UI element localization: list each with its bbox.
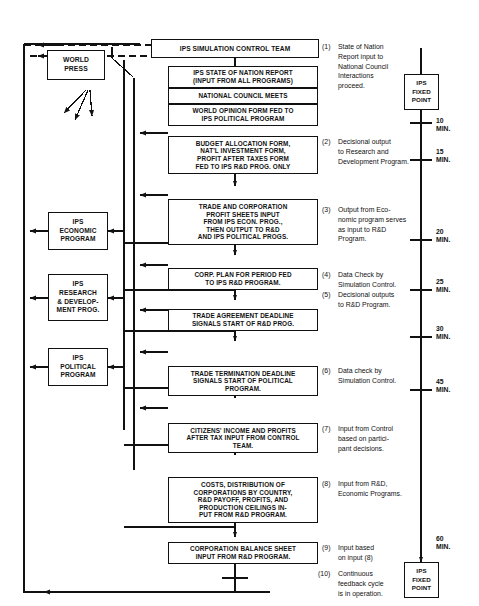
tick-value: 30 bbox=[436, 325, 450, 333]
note-number: (2) bbox=[322, 137, 338, 166]
note-number: (4) bbox=[322, 270, 338, 290]
note-line: based on partici- bbox=[338, 434, 414, 444]
program-line: & DEVELOP- bbox=[55, 298, 100, 307]
fixed-point-line: POINT bbox=[410, 96, 433, 104]
note-9: (9) Input based on input (8) bbox=[322, 543, 414, 563]
note-line: Decisional output bbox=[338, 137, 414, 147]
program-line: POLITICAL bbox=[58, 363, 98, 372]
note-line: to Research and bbox=[338, 147, 414, 157]
note-line: nomic program serves bbox=[338, 215, 416, 225]
note-line: Input from R&D, bbox=[338, 479, 414, 489]
note-line: Data check by bbox=[338, 366, 414, 376]
step-box-corp-plan[interactable]: CORP. PLAN FOR PERIOD FED TO IPS R&D PRO… bbox=[168, 268, 318, 290]
note-line: pant decisions. bbox=[338, 444, 414, 454]
program-line: PROGRAM bbox=[58, 235, 97, 244]
step-line: PRODUCTION CEILINGS IN- bbox=[197, 504, 289, 512]
tick-unit: MIN. bbox=[436, 286, 450, 294]
world-press-line-1: WORLD bbox=[61, 56, 91, 65]
step-line: CORPORATIONS BY COUNTRY, bbox=[192, 489, 295, 497]
time-tick-10min: 10 MIN. bbox=[436, 117, 450, 134]
step-line: TRADE AGREEMENT DEADLINE bbox=[190, 312, 295, 320]
note-text: Input based on input (8) bbox=[338, 543, 414, 563]
note-line: Output from Eco- bbox=[338, 205, 416, 215]
note-number: (3) bbox=[322, 205, 338, 244]
world-press-box[interactable]: WORLD PRESS bbox=[47, 50, 105, 80]
step-box-state-of-nation[interactable]: IPS STATE OF NATION REPORT (INPUT FROM A… bbox=[168, 66, 318, 88]
step-box-budget-allocation[interactable]: BUDGET ALLOCATION FORM, NAT'L INVESTMENT… bbox=[168, 136, 318, 174]
note-line: Continuous bbox=[338, 569, 414, 579]
step-line: FED TO IPS R&D PROG. ONLY bbox=[194, 163, 293, 171]
note-text: Data Check by Simulation Control. bbox=[338, 270, 414, 290]
note-text: Continuous feedback cycle is in operatio… bbox=[338, 569, 414, 598]
step-box-citizens-income[interactable]: CITIZENS' INCOME AND PROFITS AFTER TAX I… bbox=[168, 423, 318, 453]
note-line: to R&D Program. bbox=[338, 300, 414, 310]
program-box-research-development[interactable]: IPS RESEARCH & DEVELOP- MENT PROG. bbox=[48, 274, 108, 321]
tick-value: 25 bbox=[436, 278, 450, 286]
program-line: PROGRAM bbox=[58, 371, 97, 380]
step-line: PROFIT SHEETS INPUT bbox=[204, 211, 282, 219]
note-5: (5) Decisional outputs to R&D Program. bbox=[322, 290, 414, 310]
tick-unit: MIN. bbox=[436, 236, 450, 244]
step-line: TEAM. bbox=[231, 442, 255, 450]
note-line: Decisional outputs bbox=[338, 290, 414, 300]
step-line: PUT FROM R&D PROGRAM. bbox=[197, 511, 289, 519]
note-line: as input to R&D bbox=[338, 225, 416, 235]
note-line: Data Check by bbox=[338, 270, 414, 280]
step-line: NATIONAL COUNCIL MEETS bbox=[196, 92, 289, 100]
step-line: PROFIT AFTER TAXES FORM bbox=[195, 155, 291, 163]
step-box-trade-corp-profit[interactable]: TRADE AND CORPORATION PROFIT SHEETS INPU… bbox=[168, 199, 318, 245]
step-line: IPS STATE OF NATION REPORT bbox=[191, 69, 295, 77]
program-line: IPS bbox=[71, 354, 86, 363]
note-line: feedback cycle bbox=[338, 579, 414, 589]
step-box-corp-balance-sheet[interactable]: CORPORATION BALANCE SHEET INPUT FROM R&D… bbox=[168, 542, 318, 564]
tick-value: 10 bbox=[436, 117, 450, 125]
ips-simulation-control-team-box[interactable]: IPS SIMULATION CONTROL TEAM bbox=[151, 39, 319, 58]
control-team-label: IPS SIMULATION CONTROL TEAM bbox=[178, 45, 293, 53]
program-box-political[interactable]: IPS POLITICAL PROGRAM bbox=[48, 348, 108, 386]
tick-unit: MIN. bbox=[436, 156, 450, 164]
time-tick-15min: 15 MIN. bbox=[436, 148, 450, 165]
note-7: (7) Input from Control based on partici-… bbox=[322, 424, 414, 453]
note-line: is in operation. bbox=[338, 589, 414, 599]
step-box-costs-distribution[interactable]: COSTS, DISTRIBUTION OF CORPORATIONS BY C… bbox=[168, 477, 318, 523]
note-number: (6) bbox=[322, 366, 338, 386]
step-line: CORPORATION BALANCE SHEET bbox=[188, 545, 298, 553]
note-4: (4) Data Check by Simulation Control. bbox=[322, 270, 414, 290]
time-tick-25min: 25 MIN. bbox=[436, 278, 450, 295]
step-line: THEN OUTPUT TO R&D bbox=[204, 226, 281, 234]
note-line: Simulation Control. bbox=[338, 280, 414, 290]
note-number: (8) bbox=[322, 479, 338, 499]
step-box-trade-termination[interactable]: TRADE TERMINATION DEADLINE SIGNALS START… bbox=[168, 366, 318, 396]
step-line: AFTER TAX INPUT FROM CONTROL bbox=[184, 434, 301, 442]
step-box-world-opinion[interactable]: WORLD OPINION FORM FED TO IPS POLITICAL … bbox=[168, 104, 318, 126]
step-line: TRADE TERMINATION DEADLINE bbox=[189, 370, 298, 378]
time-tick-20min: 20 MIN. bbox=[436, 228, 450, 245]
note-text: Decisional output to Research and Develo… bbox=[338, 137, 414, 166]
step-line: PROGRAM. bbox=[223, 385, 263, 393]
step-line: SIGNALS START OF POLITICAL bbox=[191, 377, 295, 385]
note-10: (10) Continuous feedback cycle is in ope… bbox=[318, 569, 414, 598]
tick-unit: MIN. bbox=[436, 386, 450, 394]
note-line: Input from Control bbox=[338, 424, 414, 434]
step-line: COSTS, DISTRIBUTION OF bbox=[199, 481, 287, 489]
step-box-trade-agreement[interactable]: TRADE AGREEMENT DEADLINE SIGNALS START O… bbox=[168, 309, 318, 331]
note-number: (5) bbox=[322, 290, 338, 310]
program-box-economic[interactable]: IPS ECONOMIC PROGRAM bbox=[48, 212, 108, 250]
program-line: ECONOMIC bbox=[57, 227, 98, 236]
tick-unit: MIN. bbox=[436, 543, 450, 551]
step-line: FROM IPS ECON. PROG., bbox=[201, 218, 284, 226]
note-text: Output from Eco- nomic program serves as… bbox=[338, 205, 416, 244]
note-line: on input (8) bbox=[338, 553, 414, 563]
ips-fixed-point-top-box[interactable]: IPS FIXED POINT bbox=[404, 74, 439, 110]
step-line: BUDGET ALLOCATION FORM, bbox=[194, 140, 293, 148]
tick-value: 45 bbox=[436, 378, 450, 386]
note-line: proceed. bbox=[338, 81, 408, 91]
note-line: National Council bbox=[338, 62, 408, 72]
step-box-national-council[interactable]: NATIONAL COUNCIL MEETS bbox=[168, 88, 318, 104]
note-3: (3) Output from Eco- nomic program serve… bbox=[322, 205, 416, 244]
note-text: Input from R&D, Economic Programs. bbox=[338, 479, 414, 499]
note-number: (7) bbox=[322, 424, 338, 453]
tick-value: 15 bbox=[436, 148, 450, 156]
step-line: WORLD OPINION FORM FED TO bbox=[190, 107, 295, 115]
step-line: INPUT FROM R&D PROGRAM. bbox=[194, 553, 293, 561]
